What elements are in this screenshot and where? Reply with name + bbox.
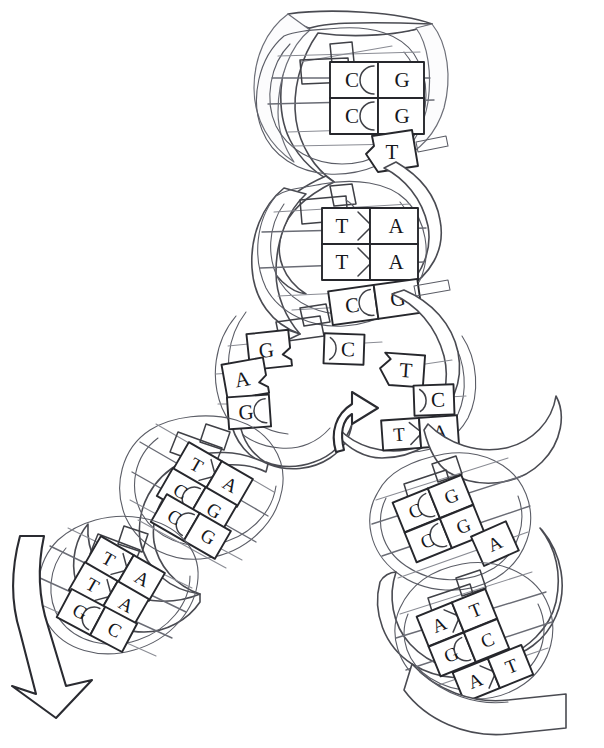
base-letter: T (386, 140, 399, 164)
base-letter: T (393, 423, 406, 445)
base-letter: C (431, 388, 446, 412)
base-pair-tile: T A (322, 244, 418, 280)
dna-double-helix-illustration: C G C G T (0, 0, 604, 748)
base-letter: T (336, 214, 349, 238)
base-pair-tile: C G (330, 98, 424, 134)
base-letter: C (341, 337, 356, 361)
base-pair-tile: C G (330, 62, 424, 98)
base-single-tile: T (379, 352, 425, 387)
base-letter: C (345, 104, 359, 128)
base-single-tile: C (413, 384, 454, 415)
base-letter: T (336, 250, 349, 274)
base-letter: A (388, 214, 404, 238)
sugar-box (300, 304, 330, 326)
base-single-tile: A (222, 357, 270, 400)
base-single-tile: C (323, 333, 364, 364)
base-letter: T (399, 358, 414, 383)
base-pair-tile: T A (322, 208, 418, 244)
base-single-tile: G (227, 395, 271, 430)
right-bottom-helix-segment: A T G C A T (378, 528, 566, 735)
dna-diagram-canvas: C G C G T (0, 0, 604, 748)
left-bottom-helix-segment: T A T A G C (12, 516, 200, 718)
base-letter: C (345, 68, 359, 92)
top-helix-segment: C G C G T (254, 11, 448, 182)
sugar-box (330, 184, 356, 206)
base-letter: G (394, 104, 409, 128)
base-letter: A (388, 250, 404, 274)
base-letter: G (394, 68, 409, 92)
